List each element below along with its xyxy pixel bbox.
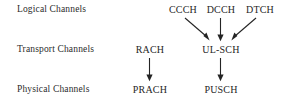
arrow-dtch-to-ul-sch <box>231 18 256 41</box>
arrow-dcch-to-ul-sch <box>217 18 223 41</box>
arrow-ul-sch-to-pusch <box>217 58 223 81</box>
arrow-ccch-to-ul-sch <box>185 18 210 41</box>
arrow-layer <box>0 0 286 106</box>
arrow-rach-to-prach <box>146 58 152 81</box>
channel-mapping-diagram: Logical Channels Transport Channels Phys… <box>0 0 286 106</box>
